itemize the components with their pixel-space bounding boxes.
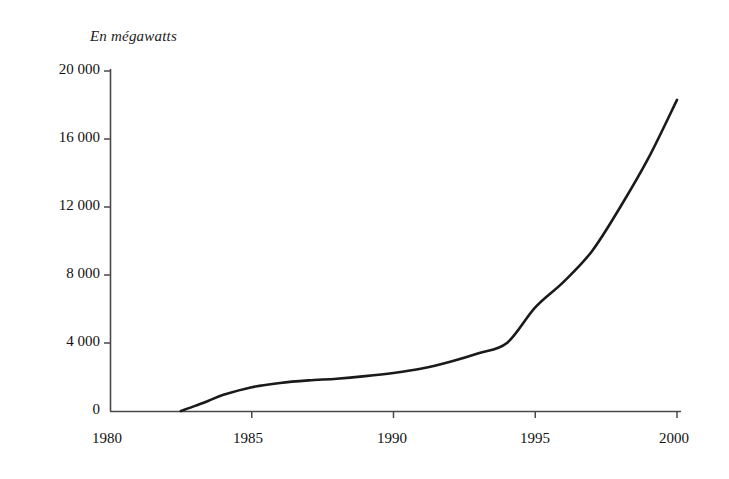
chart-plot-area (0, 0, 729, 479)
y-tick-marks (104, 71, 110, 343)
chart-container: En mégawatts 20 000 16 000 12 000 8 000 … (0, 0, 729, 479)
series-line-puissance-installee (181, 100, 677, 411)
axes-group (110, 69, 681, 412)
